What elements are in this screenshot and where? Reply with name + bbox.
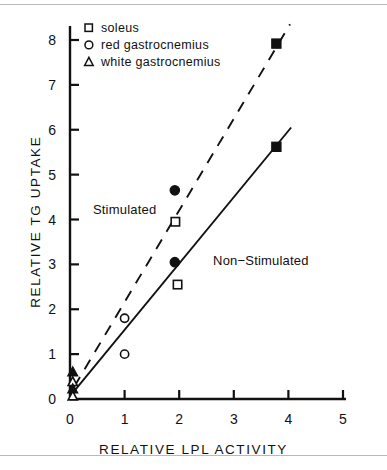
y-tick-label: 8 bbox=[36, 33, 56, 47]
figure-panel: 012345678 012345 RELATIVE LPL ACTIVITY R… bbox=[0, 0, 387, 470]
x-tick-label: 1 bbox=[115, 412, 135, 426]
data-point-circle-open bbox=[121, 314, 129, 322]
x-tick-label: 2 bbox=[169, 412, 189, 426]
data-point-circle-filled bbox=[170, 257, 179, 266]
data-point-square-filled bbox=[272, 39, 281, 48]
y-axis-title: RELATIVE TG UPTAKE bbox=[29, 112, 43, 332]
legend-item-red-gastrocnemius: red gastrocnemius bbox=[82, 37, 221, 53]
x-axis-title: RELATIVE LPL ACTIVITY bbox=[0, 443, 387, 457]
y-tick-label: 0 bbox=[36, 392, 56, 406]
triangle-open-icon bbox=[82, 55, 96, 69]
y-tick-label: 1 bbox=[36, 347, 56, 361]
annotation-non-stimulated: Non−Stimulated bbox=[213, 254, 309, 267]
square-open-icon bbox=[82, 21, 96, 35]
legend-item-label: red gastrocnemius bbox=[101, 38, 209, 52]
data-point-square-open bbox=[173, 280, 181, 288]
data-point-square-filled bbox=[272, 142, 281, 151]
data-point-circle-open bbox=[121, 350, 129, 358]
legend-item-soleus: soleus bbox=[82, 20, 221, 36]
annotation-stimulated: Stimulated bbox=[93, 203, 156, 216]
data-point-square-open bbox=[171, 218, 179, 226]
data-point-circle-filled bbox=[170, 186, 179, 195]
legend-item-label: white gastrocnemius bbox=[101, 55, 221, 69]
x-tick-label: 3 bbox=[224, 412, 244, 426]
y-tick-label: 7 bbox=[36, 78, 56, 92]
circle-open-icon bbox=[82, 38, 96, 52]
chart-legend: soleusred gastrocnemiuswhite gastrocnemi… bbox=[82, 20, 221, 71]
legend-item-label: soleus bbox=[101, 21, 139, 35]
x-tick-label: 4 bbox=[278, 412, 298, 426]
legend-item-white-gastrocnemius: white gastrocnemius bbox=[82, 54, 221, 70]
x-tick-label: 0 bbox=[60, 412, 80, 426]
x-tick-label: 5 bbox=[333, 412, 353, 426]
